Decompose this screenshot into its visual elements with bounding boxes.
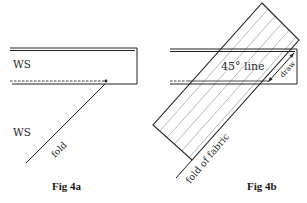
diagram-canvas: WS WS fold Fig 4a (0, 0, 307, 203)
fig-4a: WS WS fold Fig 4a (10, 48, 137, 192)
fig-4b: 45° line draw fold of fabric Fig 4b (112, 0, 307, 203)
lower-ws-label: WS (13, 126, 31, 138)
fabric-hatching (112, 0, 307, 203)
45-degree-line-label: 45° line (221, 60, 265, 73)
fold-line (26, 84, 105, 163)
upper-ws-label: WS (13, 58, 31, 70)
draw-label: draw (278, 59, 298, 80)
stitch-end-dot (105, 80, 108, 83)
fold-label: fold (49, 140, 69, 160)
fig-4b-caption: Fig 4b (247, 180, 277, 192)
fig-4a-caption: Fig 4a (52, 180, 82, 192)
